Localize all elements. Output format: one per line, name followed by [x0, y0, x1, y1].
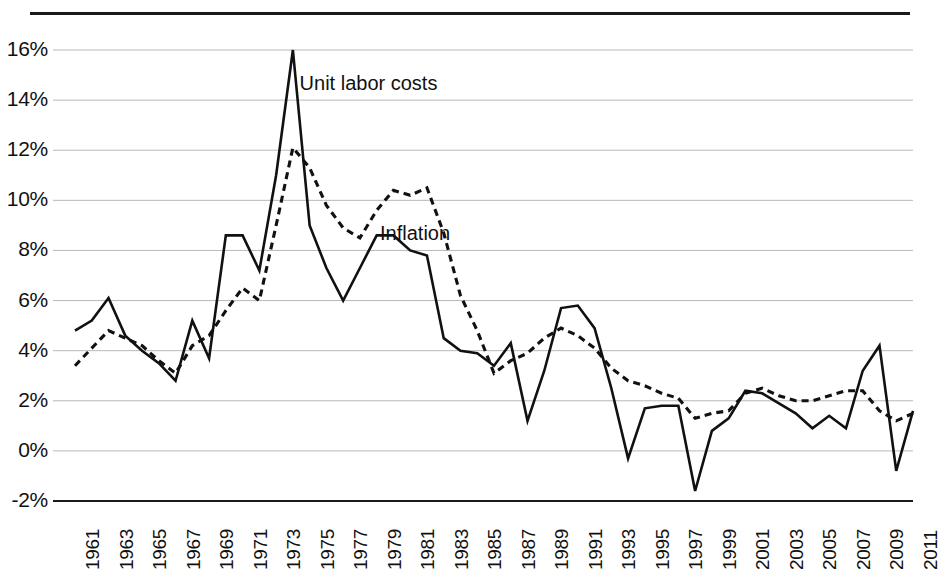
x-axis-tick-label: 1969: [216, 529, 238, 570]
y-axis-tick-label: 16%: [2, 37, 48, 61]
y-axis-tick-label: 6%: [2, 288, 48, 312]
series-line: [75, 50, 913, 491]
x-axis-tick-label: 1987: [518, 529, 540, 570]
x-axis-tick-label: 2001: [752, 529, 774, 570]
series-label: Inflation: [380, 222, 450, 245]
x-axis-tick-label: 1963: [116, 529, 138, 570]
x-axis-tick-label: 1981: [417, 529, 439, 570]
y-axis-tick-label: 12%: [2, 137, 48, 161]
x-axis-tick-label: 1997: [685, 529, 707, 570]
x-axis-tick-label: 1971: [250, 529, 272, 570]
x-axis-tick-label: 2007: [853, 529, 875, 570]
series-label: Unit labor costs: [300, 72, 438, 95]
x-axis-tick-label: 1993: [618, 529, 640, 570]
x-axis-tick-label: 2009: [886, 529, 908, 570]
x-axis-tick-label: 2011: [920, 530, 942, 570]
x-axis-tick-label: 1983: [451, 529, 473, 570]
x-axis-tick-label: 1961: [82, 529, 104, 570]
y-axis-tick-label: 14%: [2, 87, 48, 111]
x-axis-tick-label: 1995: [652, 529, 674, 570]
x-axis-tick-label: 1985: [484, 529, 506, 570]
y-axis-tick-label: 4%: [2, 338, 48, 362]
x-axis-tick-label: 1989: [551, 529, 573, 570]
x-axis-tick-label: 1977: [350, 529, 372, 570]
x-axis-tick-label: 1991: [585, 529, 607, 570]
x-axis-tick-label: 2005: [819, 529, 841, 570]
x-axis-tick-label: 1999: [719, 529, 741, 570]
x-axis-tick-label: 2003: [786, 529, 808, 570]
y-axis-tick-label: 10%: [2, 187, 48, 211]
series-line: [75, 148, 913, 421]
x-axis-tick-label: 1979: [384, 529, 406, 570]
y-axis-tick-label: 2%: [2, 388, 48, 412]
y-axis-tick-label: 0%: [2, 438, 48, 462]
y-axis-tick-label: -2%: [2, 488, 48, 512]
x-axis-tick-label: 1965: [149, 529, 171, 570]
y-axis-tick-label: 8%: [2, 237, 48, 261]
x-axis-tick-label: 1975: [317, 529, 339, 570]
x-axis-tick-label: 1973: [283, 529, 305, 570]
x-axis-tick-label: 1967: [183, 529, 205, 570]
